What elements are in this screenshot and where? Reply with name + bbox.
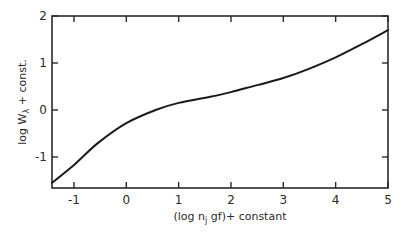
plot-frame (52, 16, 388, 188)
y-tick-label: 0 (39, 103, 47, 117)
x-tick-label: 3 (280, 193, 288, 207)
x-axis-label: (log nj gf)+ constant (174, 210, 288, 225)
x-tick-label: -1 (68, 193, 80, 207)
x-tick-label: 4 (332, 193, 340, 207)
data-curve (52, 30, 388, 183)
x-tick-label: 1 (175, 193, 183, 207)
x-axis-ticks: -1012345 (68, 16, 392, 207)
x-tick-label: 5 (384, 193, 392, 207)
x-tick-label: 0 (122, 193, 130, 207)
y-tick-label: 2 (39, 9, 47, 23)
y-tick-label: 1 (39, 56, 47, 70)
x-tick-label: 2 (227, 193, 235, 207)
y-axis-ticks: -1012 (35, 9, 388, 164)
y-tick-label: -1 (35, 150, 47, 164)
y-axis-label: log Wλ + const. (16, 59, 31, 144)
curve-of-growth-chart: -1012345 -1012 (log nj gf)+ constant log… (0, 0, 407, 232)
